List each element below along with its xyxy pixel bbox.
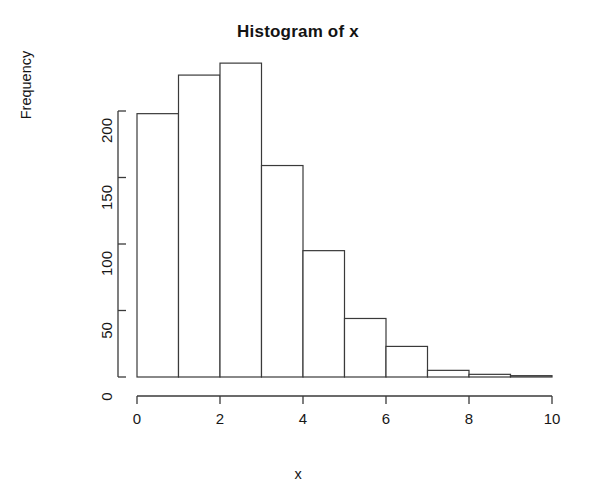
y-tick-label: 100 [98,244,115,284]
x-tick-label: 2 [200,410,240,427]
histogram-chart: Histogram of x 050100150200 0246810 Freq… [0,0,596,503]
histogram-bar [262,166,304,377]
y-tick-label: 50 [98,310,115,350]
x-tick-label: 10 [532,410,572,427]
y-tick-label: 0 [98,377,115,417]
histogram-bar [386,346,428,377]
y-axis [118,111,126,377]
histogram-bar [303,251,345,377]
bars-group [137,63,552,377]
x-axis-title: x [0,466,596,482]
x-axis [137,396,552,404]
x-tick-label: 6 [366,410,406,427]
plot-area: 050100150200 0246810 [0,0,596,503]
plot-svg [0,0,596,503]
x-tick-label: 8 [449,410,489,427]
histogram-bar [428,370,470,377]
histogram-bar [179,75,221,377]
y-tick-label: 150 [98,177,115,217]
x-tick-label: 0 [117,410,157,427]
y-axis-title: Frequency [18,5,34,165]
histogram-bar [469,374,511,377]
histogram-bar [220,63,262,377]
histogram-bar [345,318,387,377]
y-tick-label: 200 [98,111,115,151]
histogram-bar [137,114,179,377]
histogram-bar [511,376,553,377]
x-tick-label: 4 [283,410,323,427]
